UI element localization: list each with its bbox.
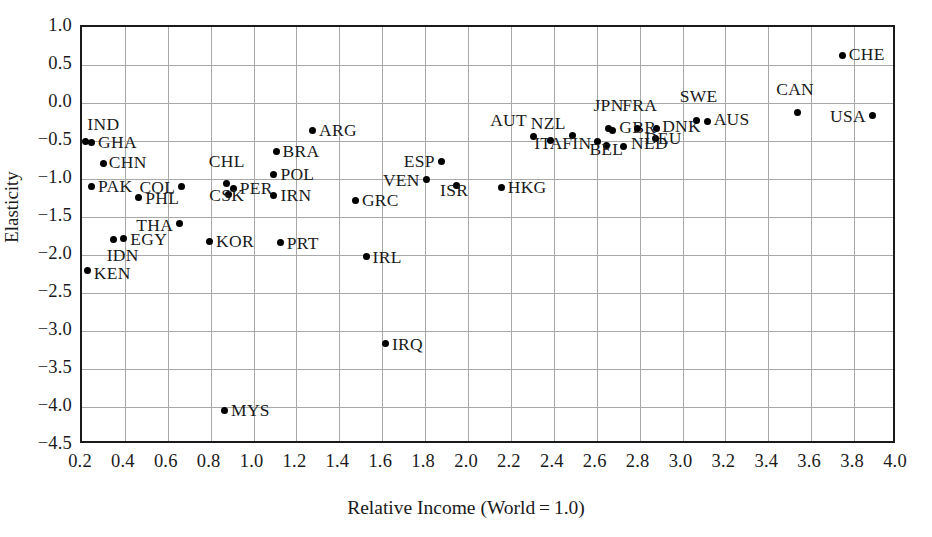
data-point-label: HKG — [508, 179, 547, 197]
data-point[interactable] — [270, 192, 277, 199]
data-point[interactable] — [270, 171, 277, 178]
data-point[interactable] — [869, 112, 876, 119]
scatter-chart-figure: INDGHACHNKENIDNEGYPAKPHLTHACOLKORMYSCHLP… — [0, 0, 932, 537]
data-point-label: PAK — [98, 178, 132, 196]
gridline-horizontal — [82, 179, 893, 180]
data-point[interactable] — [206, 238, 213, 245]
y-tick-label: −4.0 — [38, 396, 72, 415]
data-point-label: THA — [136, 217, 173, 235]
data-point-label: SWE — [680, 88, 718, 106]
data-point-label: FIN — [562, 135, 591, 153]
data-point[interactable] — [363, 253, 370, 260]
gridline-horizontal — [82, 407, 893, 408]
x-tick-label: 0.4 — [111, 452, 135, 471]
data-point[interactable] — [100, 160, 107, 167]
data-point[interactable] — [704, 118, 711, 125]
data-point[interactable] — [88, 139, 95, 146]
data-point-label: BRA — [283, 144, 320, 162]
data-point[interactable] — [277, 239, 284, 246]
x-tick-label: 2.2 — [497, 452, 521, 471]
gridline-vertical — [468, 27, 469, 441]
x-tick-label: 4.0 — [883, 452, 907, 471]
data-point[interactable] — [693, 117, 700, 124]
data-point-label: CHL — [209, 152, 245, 170]
data-point-label: ISR — [440, 181, 468, 199]
data-point-label: COL — [139, 179, 175, 197]
data-point[interactable] — [382, 340, 389, 347]
y-tick-label: −0.5 — [38, 130, 72, 149]
data-point[interactable] — [88, 183, 95, 190]
y-tick-label: −3.0 — [38, 320, 72, 339]
data-point[interactable] — [84, 267, 91, 274]
data-point[interactable] — [178, 183, 185, 190]
y-tick-label: −4.5 — [38, 434, 72, 453]
data-point-label: CHE — [849, 46, 885, 64]
y-tick-label: −1.5 — [38, 206, 72, 225]
data-point-label: FRA — [622, 97, 657, 115]
data-point-label: NZL — [531, 115, 566, 133]
gridline-horizontal — [82, 103, 893, 104]
data-point-label: IDN — [107, 247, 139, 265]
x-tick-label: 2.4 — [540, 452, 564, 471]
data-point[interactable] — [620, 143, 627, 150]
x-axis-title: Relative Income (World = 1.0) — [0, 497, 932, 519]
data-point[interactable] — [423, 176, 430, 183]
data-point[interactable] — [794, 109, 801, 116]
x-tick-label: 1.2 — [283, 452, 307, 471]
x-axis-tick-labels: 0.20.40.60.81.01.21.41.61.82.02.22.42.62… — [0, 452, 932, 478]
x-tick-label: 0.6 — [154, 452, 178, 471]
data-point-label: ARG — [319, 122, 357, 140]
data-point[interactable] — [352, 197, 359, 204]
gridline-vertical — [211, 27, 212, 441]
data-point-label: DEU — [645, 130, 682, 148]
gridline-horizontal — [82, 217, 893, 218]
data-point[interactable] — [273, 148, 280, 155]
x-tick-label: 1.4 — [325, 452, 349, 471]
data-point-label: ESP — [404, 154, 435, 172]
data-point-label: IRN — [280, 188, 311, 206]
x-tick-label: 0.8 — [197, 452, 221, 471]
data-point-label: CHN — [109, 154, 147, 172]
data-point[interactable] — [839, 52, 846, 59]
data-point[interactable] — [120, 235, 127, 242]
gridline-vertical — [597, 27, 598, 441]
gridline-horizontal — [82, 255, 893, 256]
data-point-label: PRT — [287, 235, 319, 253]
data-point-label: PER — [240, 180, 273, 198]
data-point[interactable] — [438, 158, 445, 165]
data-point-label: KOR — [216, 233, 254, 251]
gridline-vertical — [554, 27, 555, 441]
x-tick-label: 3.8 — [840, 452, 864, 471]
data-point[interactable] — [110, 236, 117, 243]
data-point[interactable] — [498, 184, 505, 191]
gridline-vertical — [382, 27, 383, 441]
plot-area: INDGHACHNKENIDNEGYPAKPHLTHACOLKORMYSCHLP… — [80, 25, 895, 443]
gridline-vertical — [339, 27, 340, 441]
y-tick-label: −2.0 — [38, 244, 72, 263]
y-tick-label: 1.0 — [48, 16, 72, 35]
gridline-horizontal — [82, 331, 893, 332]
data-point-label: AUS — [714, 111, 750, 129]
x-tick-label: 0.2 — [68, 452, 92, 471]
x-tick-label: 3.4 — [754, 452, 778, 471]
data-point[interactable] — [221, 407, 228, 414]
data-point[interactable] — [309, 127, 316, 134]
x-tick-label: 2.6 — [583, 452, 607, 471]
data-point-label: KEN — [94, 265, 131, 283]
x-tick-label: 3.0 — [669, 452, 693, 471]
x-tick-label: 2.0 — [454, 452, 478, 471]
data-point-label: CAN — [776, 81, 814, 99]
data-point-label: IRL — [373, 249, 402, 267]
gridline-horizontal — [82, 293, 893, 294]
gridline-horizontal — [82, 369, 893, 370]
gridline-vertical — [725, 27, 726, 441]
data-point-label: BEL — [589, 140, 623, 158]
data-point-label: GHA — [98, 134, 137, 152]
gridline-vertical — [125, 27, 126, 441]
data-point[interactable] — [176, 220, 183, 227]
y-tick-label: 0.5 — [48, 54, 72, 73]
data-point-label: POL — [280, 166, 314, 184]
y-tick-label: −1.0 — [38, 168, 72, 187]
data-point[interactable] — [609, 127, 616, 134]
data-point-label: MYS — [231, 402, 270, 420]
